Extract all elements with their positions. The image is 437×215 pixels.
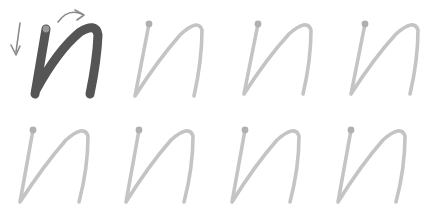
handwriting-worksheet [0,0,437,215]
trace-letter-n [211,110,321,215]
trace-letter-n [0,110,110,215]
trace-letter-n [223,0,333,110]
start-dot [43,26,50,33]
start-dot [30,127,37,134]
trace-letter-n [317,110,427,215]
start-dot [255,21,262,28]
trace-letter-n [105,110,215,215]
start-dot [146,21,153,28]
trace-letter-n [120,0,230,110]
model-letter-n [0,0,120,110]
start-dot [136,127,143,134]
start-dot [348,127,355,134]
start-dot [242,127,249,134]
arrow-down-icon [11,23,20,55]
start-dot [362,21,369,28]
arrow-curve-icon [58,10,84,22]
trace-letter-n [330,0,437,110]
